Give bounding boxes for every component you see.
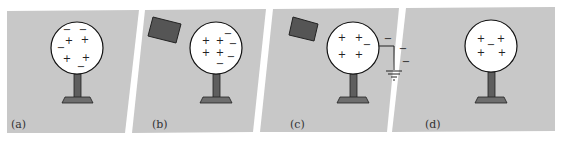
- svg-text:−: −: [487, 39, 495, 50]
- svg-text:+: +: [477, 33, 485, 44]
- svg-text:+: +: [65, 35, 73, 46]
- induction-charging-figure: − − + + − + + − (a) + + − − + + − − (b): [0, 0, 561, 141]
- panel-c-background: [260, 8, 399, 132]
- svg-text:+: +: [338, 32, 346, 43]
- svg-text:+: +: [202, 47, 210, 58]
- svg-text:+: +: [498, 47, 506, 58]
- svg-text:−: −: [399, 43, 407, 54]
- svg-text:+: +: [355, 49, 363, 60]
- svg-text:+: +: [338, 49, 346, 60]
- svg-text:−: −: [229, 38, 237, 49]
- panel-label-a: (a): [11, 118, 26, 131]
- svg-text:+: +: [497, 33, 505, 44]
- svg-text:−: −: [63, 24, 71, 35]
- svg-text:−: −: [227, 51, 235, 62]
- panel-label-c: (c): [290, 118, 305, 131]
- panel-d-background: [392, 7, 555, 132]
- svg-text:−: −: [216, 58, 224, 69]
- panel-label-b: (b): [152, 118, 168, 131]
- svg-text:+: +: [81, 34, 89, 45]
- svg-text:−: −: [363, 39, 371, 50]
- panel-label-d: (d): [425, 118, 441, 131]
- svg-text:+: +: [216, 47, 224, 58]
- svg-text:+: +: [63, 53, 71, 64]
- svg-text:+: +: [202, 35, 210, 46]
- svg-text:−: −: [384, 33, 392, 44]
- svg-text:+: +: [477, 47, 485, 58]
- svg-text:−: −: [57, 42, 65, 53]
- svg-text:−: −: [77, 61, 85, 72]
- svg-text:−: −: [402, 56, 410, 67]
